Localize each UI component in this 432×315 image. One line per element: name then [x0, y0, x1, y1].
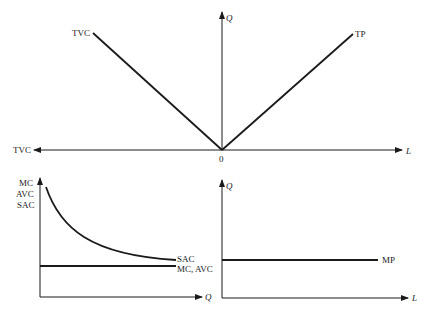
- bl-y-axis-label-avc: AVC: [16, 189, 34, 199]
- br-x-axis-label: L: [411, 293, 417, 303]
- bottom-right-panel: MP Q L: [222, 180, 417, 303]
- top-x-axis-right-label: L: [405, 146, 411, 156]
- origin-label: 0: [219, 154, 224, 164]
- mp-line-label: MP: [382, 255, 395, 265]
- top-y-axis-label: Q: [226, 13, 233, 23]
- bl-y-axis-label-sac: SAC: [17, 200, 35, 210]
- top-x-axis-left-label: TVC: [13, 145, 31, 155]
- sac-curve: [46, 187, 176, 260]
- bl-x-axis-label: Q: [205, 292, 212, 302]
- tvc-line: [93, 33, 222, 150]
- top-panel: TVC TP TVC L Q 0: [13, 12, 411, 164]
- bl-y-axis-label-mc: MC: [19, 178, 33, 188]
- cost-production-diagram: TVC TP TVC L Q 0 MC AVC SAC SAC MC, AVC …: [0, 0, 432, 315]
- tvc-curve-label: TVC: [72, 28, 90, 38]
- sac-curve-label: SAC: [177, 254, 195, 264]
- mc-avc-line-label: MC, AVC: [177, 264, 213, 274]
- bottom-left-panel: MC AVC SAC SAC MC, AVC Q: [16, 178, 213, 302]
- br-y-axis-label: Q: [226, 181, 233, 191]
- tp-curve-label: TP: [355, 29, 366, 39]
- tp-line: [222, 34, 353, 150]
